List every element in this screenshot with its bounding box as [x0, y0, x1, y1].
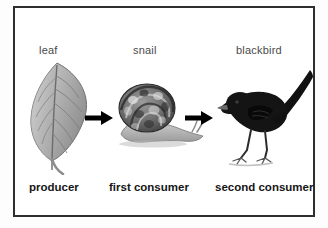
- arrow-right-icon-1: [85, 110, 113, 126]
- organism-name-blackbird: blackbird: [236, 44, 282, 56]
- figure-canvas: leaf snail blackbird: [15, 8, 313, 215]
- arrow-right-icon-2: [185, 110, 213, 126]
- food-chain-figure: leaf snail blackbird: [0, 0, 328, 228]
- figure-border: leaf snail blackbird: [13, 6, 315, 217]
- role-label-first-consumer: first consumer: [109, 181, 189, 194]
- organism-name-snail: snail: [133, 44, 157, 56]
- role-label-second-consumer: second consumer: [215, 181, 313, 194]
- organism-name-leaf: leaf: [39, 44, 58, 56]
- role-label-producer: producer: [29, 181, 79, 194]
- blackbird-illustration: [215, 60, 315, 175]
